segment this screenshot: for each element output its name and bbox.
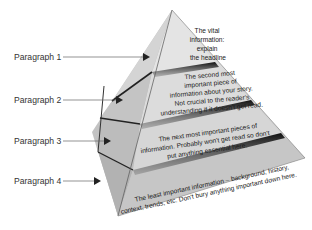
leader-paragraph-1 — [63, 53, 150, 61]
leader-paragraph-4 — [63, 177, 101, 185]
pyramid-graphic: The vital information: explain the headl… — [0, 0, 312, 230]
